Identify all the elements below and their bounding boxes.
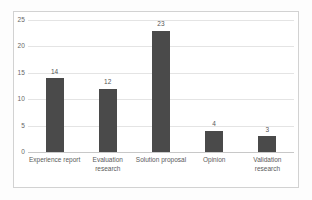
bar-group: 23: [134, 20, 187, 152]
y-tick-label: 0: [21, 149, 25, 156]
bar-chart-figure: 0510152025 14122343 Experience reportEva…: [0, 0, 312, 200]
y-tick-label: 10: [18, 96, 25, 103]
bar-value-label: 4: [212, 121, 216, 128]
x-tick-label: Evaluation research: [81, 155, 134, 174]
chart-bars: 14122343: [28, 20, 294, 152]
y-tick-label: 15: [18, 70, 25, 77]
bar-group: 3: [241, 20, 294, 152]
bar-value-label: 3: [266, 127, 270, 134]
y-tick-label: 5: [21, 122, 25, 129]
x-axis-tick-labels: Experience reportEvaluation researchSolu…: [28, 155, 294, 185]
bar-value-label: 12: [104, 79, 111, 86]
bar: [99, 89, 117, 152]
x-tick-label: Validation research: [241, 155, 294, 174]
bar-group: 14: [28, 20, 81, 152]
x-tick-label: Experience report: [28, 155, 81, 164]
gridline-0: [28, 152, 294, 153]
bar: [46, 78, 64, 152]
y-tick-label: 25: [18, 17, 25, 24]
bar-value-label: 14: [51, 69, 58, 76]
bar: [152, 31, 170, 152]
bar-group: 12: [81, 20, 134, 152]
x-tick-label: Opinion: [188, 155, 241, 164]
x-tick-label: Solution proposal: [134, 155, 187, 164]
y-axis-tick-labels: 0510152025: [13, 20, 27, 152]
bar-group: 4: [188, 20, 241, 152]
y-tick-label: 20: [18, 43, 25, 50]
bar: [258, 136, 276, 152]
bar: [205, 131, 223, 152]
bar-value-label: 23: [157, 21, 164, 28]
